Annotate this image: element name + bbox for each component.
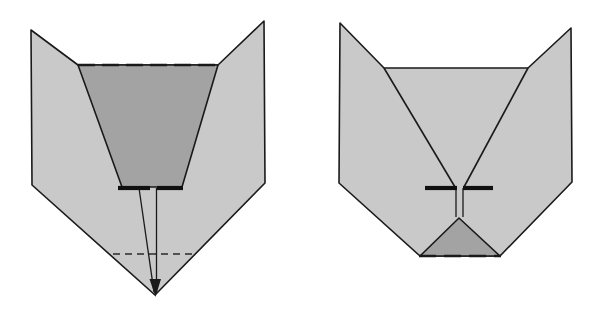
technical-figure-canvas xyxy=(0,0,594,321)
